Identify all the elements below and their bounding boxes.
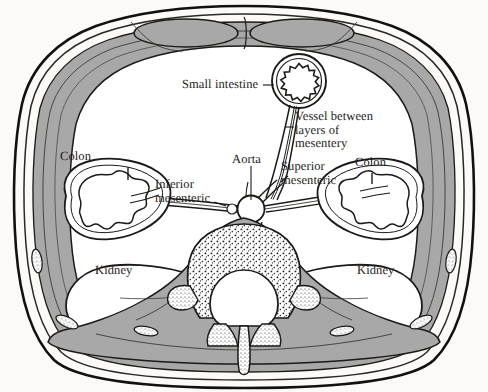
- label-kidney-left: Kidney: [95, 264, 132, 278]
- label-aorta: Aorta: [232, 153, 261, 167]
- label-vessel-between-layers: Vessel between layers of mesentery: [295, 110, 373, 151]
- label-superior-mesenteric: Superior mesenteric: [281, 160, 336, 187]
- label-colon-left: Colon: [60, 150, 91, 164]
- anatomical-figure: Colon Colon Small intestine Vessel betwe…: [0, 0, 488, 392]
- label-small-intestine: Small intestine: [182, 78, 258, 92]
- label-inferior-mesenteric: Inferior mesenteric: [155, 178, 210, 205]
- rectus-abdominis-right: [250, 19, 354, 47]
- label-colon-right: Colon: [355, 156, 386, 170]
- label-kidney-right: Kidney: [357, 264, 394, 278]
- spinous-process: [238, 326, 250, 375]
- small-intestine-loop: [272, 54, 326, 108]
- abdominal-cross-section-illustration: [0, 0, 488, 392]
- rectus-abdominis-left: [134, 19, 238, 47]
